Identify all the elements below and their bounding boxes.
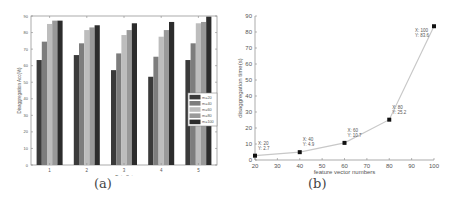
bar [84, 30, 89, 165]
y-tick-label: 0 [26, 163, 29, 168]
line-chart-panel: 01020304050607080902030405060708090100X:… [230, 0, 458, 204]
bar-chart-panel: 010203040506070809012345Data SetDisaggre… [0, 0, 230, 204]
bar [52, 21, 57, 165]
bar [169, 22, 174, 165]
y-tick-label: 20 [245, 125, 252, 131]
legend-swatch [190, 120, 201, 125]
bar [116, 53, 121, 165]
bar [148, 77, 153, 165]
y-axis-label: disaggregation time(s) [237, 58, 243, 117]
legend-swatch [190, 101, 201, 106]
datatip-y: Y: 2.7 [258, 146, 270, 151]
y-tick-label: 90 [24, 14, 29, 19]
x-tick-label: 40 [296, 163, 303, 169]
x-tick-label: 20 [252, 163, 259, 169]
data-line [255, 26, 434, 155]
y-tick-label: 50 [245, 77, 252, 83]
legend-label: m=100 [202, 120, 214, 124]
bar [153, 57, 158, 165]
legend-swatch [190, 95, 201, 100]
x-tick-label: 1 [48, 168, 51, 173]
bar [42, 42, 47, 165]
y-tick-label: 40 [245, 93, 252, 99]
caption-b: (b) [308, 176, 326, 191]
bar [79, 43, 84, 165]
y-tick-label: 40 [24, 96, 29, 101]
data-point-marker [253, 154, 257, 158]
y-tick-label: 10 [24, 146, 29, 151]
datatip-y: Y: 83.6 [415, 33, 430, 38]
legend-label: m=40 [202, 102, 212, 106]
bar [37, 60, 42, 165]
data-point-marker [343, 141, 347, 145]
y-tick-label: 70 [24, 47, 29, 52]
bar [132, 23, 137, 165]
caption-a: (a) [94, 176, 112, 191]
legend-swatch [190, 107, 201, 112]
x-axis-label: Data Set [115, 175, 133, 176]
x-axis-label: feature vector numbers [314, 169, 376, 175]
y-tick-label: 20 [24, 129, 29, 134]
y-tick-label: 80 [245, 29, 252, 35]
y-tick-label: 30 [245, 109, 252, 115]
legend-label: m=20 [202, 96, 212, 100]
legend-label: m=80 [202, 114, 212, 118]
x-tick-label: 5 [197, 168, 200, 173]
datatip-y: Y: 10.7 [348, 133, 363, 138]
bar [159, 37, 164, 165]
bar [74, 55, 79, 165]
data-point-marker [298, 150, 302, 154]
bar [206, 17, 211, 165]
bar [111, 70, 116, 165]
bar-chart: 010203040506070809012345Data SetDisaggre… [0, 0, 230, 176]
bar [95, 25, 100, 165]
data-point-marker [432, 24, 436, 28]
y-tick-label: 50 [24, 80, 29, 85]
bar [121, 35, 126, 165]
bar [57, 21, 62, 165]
x-tick-label: 80 [386, 163, 393, 169]
y-tick-label: 10 [245, 141, 252, 147]
y-tick-label: 90 [245, 13, 252, 19]
y-tick-label: 80 [24, 30, 29, 35]
bar [164, 30, 169, 165]
y-tick-label: 70 [245, 45, 252, 51]
y-axis-label: Disaggregation Acc(%) [17, 67, 22, 113]
bar [127, 30, 132, 165]
bar [89, 27, 94, 165]
x-tick-label: 100 [429, 163, 440, 169]
x-tick-label: 3 [123, 168, 126, 173]
y-tick-label: 30 [24, 113, 29, 118]
datatip-y: Y: 4.9 [303, 142, 315, 147]
line-chart: 01020304050607080902030405060708090100X:… [230, 0, 458, 176]
bar [47, 24, 52, 165]
x-tick-label: 90 [408, 163, 415, 169]
legend-swatch [190, 113, 201, 118]
x-tick-label: 30 [274, 163, 281, 169]
x-tick-label: 2 [86, 168, 89, 173]
data-point-marker [387, 118, 391, 122]
y-tick-label: 60 [24, 63, 29, 68]
x-tick-label: 4 [160, 168, 163, 173]
datatip-y: Y: 25.2 [392, 110, 407, 115]
legend-label: m=60 [202, 108, 212, 112]
y-tick-label: 60 [245, 61, 252, 67]
